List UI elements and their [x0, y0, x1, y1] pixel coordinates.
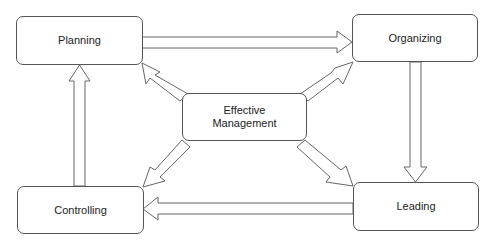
arrow-organizing-to-leading [404, 62, 427, 182]
arrow-leading-to-controlling [143, 197, 353, 220]
node-planning: Planning [16, 16, 143, 65]
node-label-line2: Management [212, 117, 276, 130]
node-label-line1: Effective [224, 104, 266, 117]
arrow-center-to-planning [142, 63, 188, 101]
node-effective-management: Effective Management [182, 93, 307, 141]
node-leading: Leading [353, 182, 479, 231]
node-label: Organizing [388, 32, 441, 45]
arrow-center-to-organizing [300, 62, 353, 101]
node-label: Planning [58, 34, 101, 47]
node-label: Leading [396, 200, 435, 213]
arrow-controlling-to-planning [69, 65, 90, 186]
node-organizing: Organizing [352, 14, 478, 62]
arrow-center-to-controlling [143, 140, 190, 187]
node-label: Controlling [54, 204, 107, 217]
arrow-center-to-leading [297, 140, 353, 186]
arrow-planning-to-organizing [142, 31, 352, 53]
diagram-canvas: Planning Organizing Leading Controlling … [0, 0, 492, 245]
node-controlling: Controlling [17, 186, 144, 234]
